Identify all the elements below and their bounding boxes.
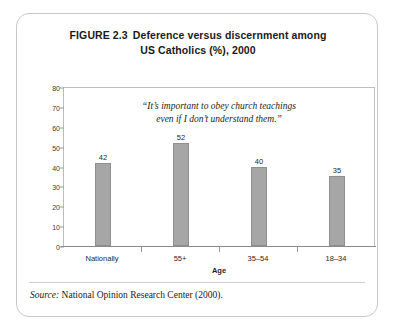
bar-group: 40 — [220, 88, 298, 246]
figure-title-line-1: FIGURE 2.3Deference versus discernment a… — [35, 28, 361, 43]
bar — [173, 143, 189, 246]
source-note: Source: National Opinion Research Center… — [30, 290, 223, 300]
y-axis-tick-label: 70 — [52, 104, 60, 111]
figure-number-label: FIGURE 2.3 — [70, 29, 128, 41]
bar-value-label: 42 — [99, 153, 107, 162]
y-axis-tick-label: 50 — [52, 144, 60, 151]
figure-title-line-2: US Catholics (%), 2000 — [35, 43, 361, 58]
x-axis-tick-mark — [219, 247, 220, 252]
bar — [95, 163, 111, 246]
source-text: National Opinion Research Center (2000). — [62, 290, 223, 300]
figure-title: FIGURE 2.3Deference versus discernment a… — [35, 28, 361, 58]
plot-area: 01020304050607080 “It’s important to obe… — [63, 87, 375, 246]
bar-value-label: 52 — [177, 133, 185, 142]
figure-card: FIGURE 2.3Deference versus discernment a… — [16, 13, 378, 317]
y-axis-tick-label: 40 — [52, 164, 60, 171]
bar — [251, 167, 267, 247]
y-axis-tick-label: 30 — [52, 184, 60, 191]
x-axis-tick-mark — [141, 247, 142, 252]
y-axis-tick-label: 20 — [52, 204, 60, 211]
source-divider — [29, 282, 365, 283]
y-axis-tick-label: 80 — [52, 85, 60, 92]
x-axis-category-label: 35–54 — [248, 254, 269, 263]
bar — [329, 176, 345, 246]
y-axis-tick-label: 10 — [52, 224, 60, 231]
x-axis-category-label: 18–34 — [326, 254, 347, 263]
bar-group: 42 — [64, 88, 142, 246]
y-axis-tick-label: 60 — [52, 124, 60, 131]
bar-group: 35 — [298, 88, 376, 246]
x-axis-tick-mark — [297, 247, 298, 252]
bar-value-label: 35 — [333, 166, 341, 175]
x-axis-category-label: Nationally — [86, 254, 119, 263]
bar-group: 52 — [142, 88, 220, 246]
source-label: Source: — [30, 290, 59, 300]
x-axis-title: Age — [63, 266, 375, 275]
figure-title-text-1: Deference versus discernment among — [133, 29, 327, 41]
bar-value-label: 40 — [255, 157, 263, 166]
x-axis-category-label: 55+ — [174, 254, 187, 263]
